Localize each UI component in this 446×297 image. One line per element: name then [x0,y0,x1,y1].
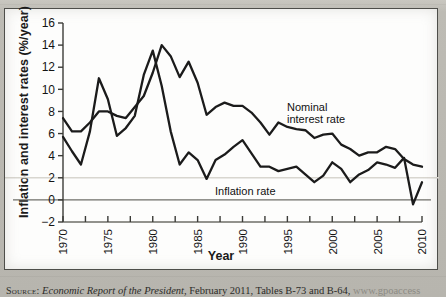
chart-tick-labels: −202468101214161970197519801985199019952… [41,16,428,254]
svg-text:12: 12 [42,60,56,74]
svg-text:2: 2 [48,171,55,185]
series-label-nominal: Nominal interest rate [287,101,345,126]
svg-text:6: 6 [48,127,55,141]
svg-text:10: 10 [42,83,56,97]
svg-text:4: 4 [48,149,55,163]
figure-panel: Inflation and interest rates (%/year) −2… [4,8,438,270]
source-title: Economic Report of the President [42,285,184,296]
series-label-inflation: Inflation rate [215,185,276,197]
chart-plot: −202468101214161970197519801985199019952… [5,9,439,271]
svg-text:8: 8 [48,105,55,119]
chart-series [63,45,422,204]
source-url: www.gpoaccess [353,285,420,296]
svg-text:−2: −2 [41,215,55,229]
x-axis-title: Year [5,249,437,263]
source-details: , February 2011, Tables B-73 and B-64, [184,285,350,296]
svg-text:16: 16 [42,16,56,30]
svg-text:0: 0 [48,193,55,207]
page-background: Inflation and interest rates (%/year) −2… [0,0,446,297]
source-caption: Source: Economic Report of the President… [6,285,446,296]
source-prefix: Source: [6,285,39,296]
svg-text:14: 14 [42,38,56,52]
